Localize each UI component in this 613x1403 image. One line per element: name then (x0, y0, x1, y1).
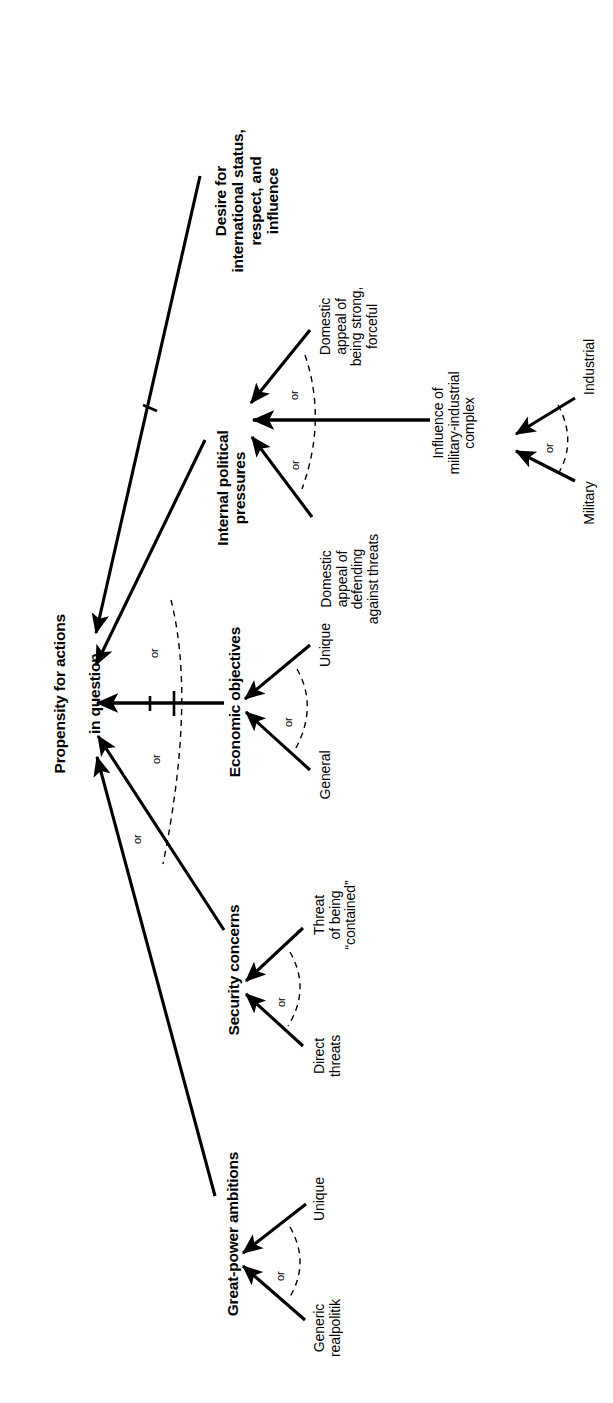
or-marker-mic: or (543, 443, 555, 453)
edge-threat-contained-to-security (246, 928, 303, 981)
sub-label-industrial: Industrial (582, 322, 598, 412)
edge-unique-to-great-power (243, 1204, 306, 1253)
or-marker-economic: or (282, 717, 294, 727)
edge-general-to-economic (246, 712, 310, 770)
hub-title: Propensity for actions in question (34, 600, 121, 804)
sub-label-direct-threats: Direct threats (312, 1007, 343, 1105)
sub-label-unique-great-power: Unique (312, 1154, 328, 1244)
or-arc-mic (557, 405, 568, 476)
sub-label-general-economic: General (318, 728, 334, 822)
edge-appeal-defending-to-ipp (252, 437, 312, 517)
hub-title-line2: in question (86, 654, 103, 734)
edge-desire-tick (143, 405, 157, 411)
or-marker-security: or (275, 997, 287, 1007)
sub-label-appeal-strong: Domestic appeal of being strong, forcefu… (318, 249, 381, 404)
node-title-security-concerns: Security concerns (225, 880, 242, 1060)
hub-title-line1: Propensity for actions (51, 614, 68, 773)
edge-desire-status-to-hub (96, 176, 200, 633)
or-arc-great-power (288, 1227, 300, 1300)
influence-diagram: Propensity for actions in question Desir… (0, 0, 613, 1403)
or-marker-ipp-upper: or (288, 390, 300, 400)
node-title-economic-objectives: Economic objectives (226, 596, 243, 808)
or-arc-economic (296, 669, 307, 748)
or-marker-hub-lowest: or (131, 834, 143, 844)
or-marker-great-power: or (274, 1271, 286, 1281)
or-arc-security (288, 952, 300, 1026)
node-title-internal-political-pressures: Internal political pressures (214, 388, 249, 588)
sub-label-generic-realpolitik: Generic realpolitik (312, 1268, 343, 1388)
sub-label-threat-contained: Threat of being “contained” (312, 859, 359, 971)
sub-label-military: Military (582, 460, 598, 546)
or-marker-hub-upper: or (148, 648, 160, 658)
sub-label-unique-economic: Unique (318, 600, 334, 690)
or-arc-hub (163, 600, 182, 864)
or-marker-ipp-lower: or (289, 460, 301, 470)
node-title-desire-status: Desire for international status, respect… (212, 56, 281, 346)
edge-unique-to-economic (245, 645, 310, 699)
edge-military-to-mic (516, 451, 575, 481)
or-arc-ipp (302, 355, 315, 489)
or-marker-hub-lower: or (150, 754, 162, 764)
node-title-military-industrial-complex: Influence of military-industrial complex (431, 327, 478, 519)
node-title-great-power-ambitions: Great-power ambitions (224, 1120, 241, 1348)
